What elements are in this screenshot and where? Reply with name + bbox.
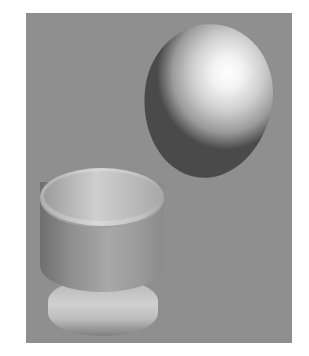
egg-cup-rim [40, 168, 164, 226]
egg-cup-interior [44, 171, 160, 221]
egg-cup [40, 168, 164, 336]
